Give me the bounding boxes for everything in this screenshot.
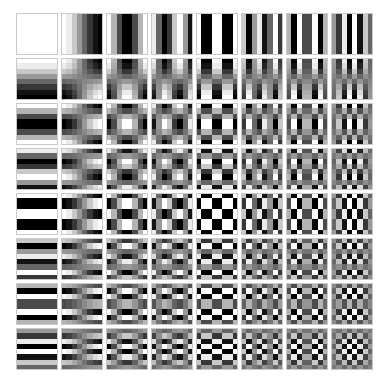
dct-basis-tile-v4u2 — [106, 193, 148, 235]
dct-basis-tile-v7u2 — [106, 328, 148, 370]
dct-basis-canvas-v2u3 — [151, 103, 193, 145]
dct-basis-canvas-v5u0 — [16, 238, 58, 280]
dct-basis-canvas-v0u5 — [241, 13, 283, 55]
dct-basis-canvas-v2u0 — [16, 103, 58, 145]
dct-basis-canvas-v0u3 — [151, 13, 193, 55]
dct-basis-tile-v7u6 — [286, 328, 328, 370]
dct-basis-tile-v0u2 — [106, 13, 148, 55]
dct-basis-tile-v6u1 — [61, 283, 103, 325]
dct-basis-tile-v6u5 — [241, 283, 283, 325]
dct-basis-tile-v0u1 — [61, 13, 103, 55]
dct-basis-tile-v1u0 — [16, 58, 58, 100]
dct-basis-tile-v3u4 — [196, 148, 238, 190]
dct-basis-canvas-v6u4 — [196, 283, 238, 325]
dct-basis-canvas-v1u5 — [241, 58, 283, 100]
dct-basis-canvas-v7u5 — [241, 328, 283, 370]
dct-basis-tile-v6u6 — [286, 283, 328, 325]
dct-basis-tile-v1u6 — [286, 58, 328, 100]
dct-basis-canvas-v1u2 — [106, 58, 148, 100]
dct-basis-tile-v3u6 — [286, 148, 328, 190]
dct-basis-tile-v4u3 — [151, 193, 193, 235]
dct-basis-canvas-v7u6 — [286, 328, 328, 370]
dct-basis-tile-v2u6 — [286, 103, 328, 145]
dct-basis-canvas-v2u7 — [331, 103, 373, 145]
dct-basis-tile-v6u0 — [16, 283, 58, 325]
dct-basis-canvas-v4u3 — [151, 193, 193, 235]
dct-basis-tile-v6u2 — [106, 283, 148, 325]
dct-basis-tile-v4u4 — [196, 193, 238, 235]
dct-basis-canvas-v1u3 — [151, 58, 193, 100]
dct-basis-tile-v4u6 — [286, 193, 328, 235]
dct-basis-tile-v4u0 — [16, 193, 58, 235]
dct-basis-canvas-v5u7 — [331, 238, 373, 280]
dct-basis-canvas-v5u1 — [61, 238, 103, 280]
dct-basis-canvas-v6u7 — [331, 283, 373, 325]
dct-basis-canvas-v7u0 — [16, 328, 58, 370]
dct-basis-canvas-v1u6 — [286, 58, 328, 100]
dct-basis-canvas-v5u2 — [106, 238, 148, 280]
dct-basis-tile-v0u3 — [151, 13, 193, 55]
dct-basis-canvas-v6u3 — [151, 283, 193, 325]
dct-basis-canvas-v7u2 — [106, 328, 148, 370]
dct-basis-tile-v7u5 — [241, 328, 283, 370]
dct-basis-canvas-v5u4 — [196, 238, 238, 280]
dct-basis-tile-v2u2 — [106, 103, 148, 145]
dct-basis-figure — [0, 0, 381, 390]
dct-basis-canvas-v0u6 — [286, 13, 328, 55]
dct-basis-canvas-v1u1 — [61, 58, 103, 100]
dct-basis-canvas-v5u5 — [241, 238, 283, 280]
dct-basis-tile-v0u7 — [331, 13, 373, 55]
dct-basis-tile-v6u7 — [331, 283, 373, 325]
dct-basis-canvas-v7u7 — [331, 328, 373, 370]
dct-basis-tile-v3u3 — [151, 148, 193, 190]
dct-basis-tile-v2u3 — [151, 103, 193, 145]
dct-basis-tile-v3u2 — [106, 148, 148, 190]
dct-basis-tile-v5u1 — [61, 238, 103, 280]
dct-basis-tile-v5u7 — [331, 238, 373, 280]
dct-basis-canvas-v4u6 — [286, 193, 328, 235]
dct-basis-tile-v0u5 — [241, 13, 283, 55]
dct-basis-canvas-v2u5 — [241, 103, 283, 145]
dct-basis-canvas-v4u4 — [196, 193, 238, 235]
dct-basis-canvas-v3u0 — [16, 148, 58, 190]
dct-basis-tile-v1u2 — [106, 58, 148, 100]
dct-basis-canvas-v2u6 — [286, 103, 328, 145]
dct-basis-tile-v0u0 — [16, 13, 58, 55]
dct-basis-tile-v7u1 — [61, 328, 103, 370]
dct-basis-canvas-v3u6 — [286, 148, 328, 190]
dct-basis-canvas-v1u0 — [16, 58, 58, 100]
dct-basis-canvas-v6u6 — [286, 283, 328, 325]
dct-basis-canvas-v4u0 — [16, 193, 58, 235]
dct-basis-tile-v4u5 — [241, 193, 283, 235]
dct-basis-tile-v5u3 — [151, 238, 193, 280]
dct-basis-tile-v0u4 — [196, 13, 238, 55]
dct-basis-tile-v5u0 — [16, 238, 58, 280]
dct-basis-canvas-v6u5 — [241, 283, 283, 325]
dct-basis-canvas-v0u0 — [16, 13, 58, 55]
dct-basis-canvas-v6u2 — [106, 283, 148, 325]
dct-basis-canvas-v3u1 — [61, 148, 103, 190]
dct-basis-tile-v3u1 — [61, 148, 103, 190]
dct-basis-tile-v2u4 — [196, 103, 238, 145]
dct-basis-canvas-v4u7 — [331, 193, 373, 235]
dct-basis-tile-v5u4 — [196, 238, 238, 280]
dct-basis-canvas-v3u7 — [331, 148, 373, 190]
dct-basis-canvas-v5u3 — [151, 238, 193, 280]
dct-basis-tile-v3u7 — [331, 148, 373, 190]
dct-basis-tile-v2u0 — [16, 103, 58, 145]
dct-basis-canvas-v4u2 — [106, 193, 148, 235]
dct-basis-tile-v1u3 — [151, 58, 193, 100]
dct-basis-tile-v2u5 — [241, 103, 283, 145]
dct-basis-canvas-v2u1 — [61, 103, 103, 145]
dct-basis-canvas-v3u2 — [106, 148, 148, 190]
dct-basis-canvas-v5u6 — [286, 238, 328, 280]
dct-basis-tile-v1u1 — [61, 58, 103, 100]
dct-basis-tile-v3u5 — [241, 148, 283, 190]
dct-basis-tile-v2u7 — [331, 103, 373, 145]
dct-basis-canvas-v4u1 — [61, 193, 103, 235]
dct-basis-canvas-v4u5 — [241, 193, 283, 235]
dct-basis-grid — [16, 13, 373, 370]
dct-basis-canvas-v0u7 — [331, 13, 373, 55]
dct-basis-canvas-v7u4 — [196, 328, 238, 370]
dct-basis-canvas-v6u0 — [16, 283, 58, 325]
